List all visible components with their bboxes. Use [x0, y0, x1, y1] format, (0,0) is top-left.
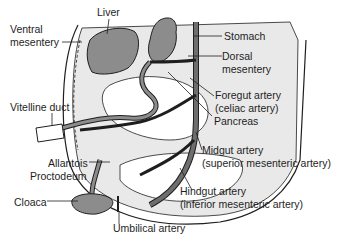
- label-ventral-mesentery-1: Ventral: [10, 23, 43, 35]
- embryonic-gut-diagram: Liver Ventral mesentery Stomach Dorsal m…: [0, 0, 340, 240]
- label-liver: Liver: [97, 6, 120, 18]
- label-foregut-artery-2: (celiac artery): [215, 102, 279, 114]
- label-dorsal-mesentery-1: Dorsal: [222, 50, 252, 62]
- label-cloaca: Cloaca: [14, 196, 47, 208]
- label-midgut-artery-2: (superior mesenteric artery): [202, 157, 331, 169]
- label-pancreas: Pancreas: [214, 115, 258, 127]
- label-umbilical-artery: Umbilical artery: [113, 222, 185, 234]
- label-proctodeum: Proctodeum: [30, 170, 87, 182]
- label-ventral-mesentery-2: mesentery: [10, 36, 59, 48]
- cloaca-organ: [72, 194, 113, 214]
- label-foregut-artery-1: Foregut artery: [215, 89, 281, 101]
- label-allantois: Allantois: [48, 157, 88, 169]
- label-midgut-artery-1: Midgut artery: [202, 144, 263, 156]
- label-hindgut-artery-1: Hindgut artery: [180, 185, 246, 197]
- label-vitelline-duct: Vitelline duct: [10, 101, 69, 113]
- label-dorsal-mesentery-2: mesentery: [222, 63, 271, 75]
- label-stomach: Stomach: [224, 30, 265, 42]
- vitelline-duct-tube: [36, 124, 64, 142]
- label-hindgut-artery-2: (inferior mesenteric artery): [180, 198, 303, 210]
